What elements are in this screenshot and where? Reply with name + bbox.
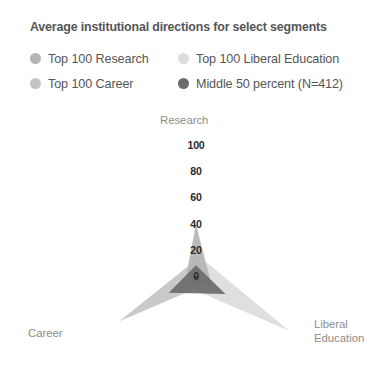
radar-chart-figure: Average institutional directions for sel… [0,0,388,371]
radial-tick-label: 80 [179,165,213,177]
page-title: Average institutional directions for sel… [30,20,327,34]
legend-row: Top 100 Career Middle 50 percent (N=412) [30,71,370,96]
legend-swatch-icon [178,78,189,89]
radial-tick-label: 60 [179,191,213,203]
radial-tick-label: 100 [179,139,213,151]
radial-tick-label: 40 [179,218,213,230]
axis-label-career: Career [28,327,63,339]
legend-swatch-icon [30,53,41,64]
legend-item-top-100-liberal-education[interactable]: Top 100 Liberal Education [178,52,339,66]
legend-label: Top 100 Research [48,52,149,66]
legend-item-middle-50-percent[interactable]: Middle 50 percent (N=412) [178,77,343,91]
legend-swatch-icon [30,78,41,89]
legend-item-top-100-career[interactable]: Top 100 Career [30,77,178,91]
axis-label-research: Research [160,114,208,126]
chart-legend: Top 100 Research Top 100 Liberal Educati… [30,46,370,96]
legend-row: Top 100 Research Top 100 Liberal Educati… [30,46,370,71]
legend-swatch-icon [178,53,189,64]
legend-item-top-100-research[interactable]: Top 100 Research [30,52,178,66]
legend-label: Middle 50 percent (N=412) [196,77,343,91]
legend-label: Top 100 Liberal Education [196,52,339,66]
legend-label: Top 100 Career [48,77,133,91]
axis-label-liberal-line1: Liberal [314,318,348,330]
axis-label-liberal-education: Liberal Education [314,317,374,345]
radial-tick-label: 20 [179,244,213,256]
axis-label-liberal-line2: Education [314,332,364,344]
radial-tick-label: 0 [179,270,213,282]
